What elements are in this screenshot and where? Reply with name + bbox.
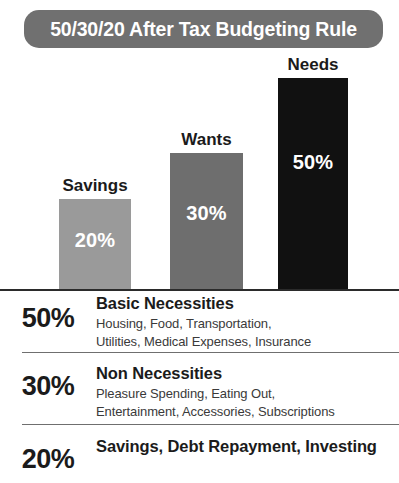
- title-banner: 50/30/20 After Tax Budgeting Rule: [24, 10, 383, 48]
- bar-label-needs: Needs: [287, 55, 338, 75]
- bar-group-wants: Wants 30%: [170, 153, 243, 290]
- breakdown-body: Basic Necessities Housing, Food, Transpo…: [96, 291, 399, 350]
- bar-wants: 30%: [170, 153, 243, 290]
- breakdown-body: Savings, Debt Repayment, Investing: [96, 424, 399, 457]
- bar-label-savings: Savings: [62, 176, 127, 196]
- breakdown-row-savings: 20% Savings, Debt Repayment, Investing: [0, 424, 399, 483]
- bar-chart: Savings 20% Wants 30% Needs 50%: [0, 55, 399, 290]
- budgeting-rule-infographic: 50/30/20 After Tax Budgeting Rule Saving…: [0, 0, 399, 483]
- breakdown-details-line-1: Pleasure Spending, Eating Out,: [96, 385, 393, 402]
- breakdown-body: Non Necessities Pleasure Spending, Eatin…: [96, 352, 399, 420]
- bar-needs: 50%: [278, 78, 348, 290]
- breakdown-details-line-1: Housing, Food, Transportation,: [96, 315, 393, 332]
- bar-label-wants: Wants: [181, 130, 231, 150]
- breakdown-title: Savings, Debt Repayment, Investing: [96, 436, 393, 457]
- breakdown-percent: 20%: [0, 424, 96, 475]
- bar-value-wants: 30%: [186, 202, 227, 225]
- bar-savings: 20%: [59, 199, 131, 290]
- row-divider: [22, 424, 399, 425]
- breakdown-title: Non Necessities: [96, 364, 393, 384]
- breakdown-row-non-necessities: 30% Non Necessities Pleasure Spending, E…: [0, 352, 399, 424]
- breakdown-list: 50% Basic Necessities Housing, Food, Tra…: [0, 291, 399, 483]
- bar-group-savings: Savings 20%: [59, 199, 131, 290]
- bar-group-needs: Needs 50%: [278, 78, 348, 290]
- breakdown-title: Basic Necessities: [96, 294, 393, 314]
- row-divider: [22, 352, 399, 353]
- breakdown-details-line-2: Utilities, Medical Expenses, Insurance: [96, 333, 393, 350]
- breakdown-percent: 50%: [0, 291, 96, 334]
- bar-value-needs: 50%: [293, 151, 334, 174]
- breakdown-percent: 30%: [0, 352, 96, 402]
- breakdown-details-line-2: Entertainment, Accessories, Subscription…: [96, 403, 393, 420]
- page-title: 50/30/20 After Tax Budgeting Rule: [50, 18, 357, 41]
- breakdown-row-basic-necessities: 50% Basic Necessities Housing, Food, Tra…: [0, 291, 399, 352]
- bar-value-savings: 20%: [75, 229, 116, 252]
